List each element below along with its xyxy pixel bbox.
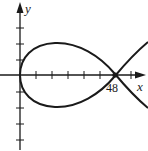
crossing-point: [112, 72, 117, 77]
x-axis: [0, 71, 146, 79]
crossing-value-label: 48: [106, 81, 118, 95]
y-axis-arrow-icon: [17, 2, 24, 13]
x-axis-label: x: [136, 79, 143, 94]
y-axis-label: y: [23, 1, 31, 16]
x-axis-arrow-icon: [135, 72, 146, 79]
loop-curve-diagram: y x 48: [0, 0, 148, 151]
